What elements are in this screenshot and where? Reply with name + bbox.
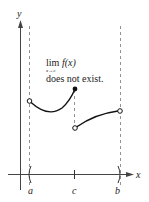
open-endpoint-c [73, 126, 78, 131]
closed-endpoint-c [73, 87, 78, 92]
open-endpoint-a [27, 99, 32, 104]
tick-label-c: c [72, 185, 77, 196]
annotation-func: f(x) [62, 57, 77, 69]
annotation-does-not-exist: does not exist. [46, 73, 104, 84]
x-axis-arrow-icon [126, 172, 134, 177]
tick-label-a: a [28, 185, 33, 196]
annotation-lim: lim [46, 57, 60, 68]
limit-diagram: y x a c b lim f(x) x→c does not exist. [0, 0, 149, 202]
open-endpoint-b [118, 109, 123, 114]
curve-right [77, 111, 119, 127]
y-axis-label: y [16, 8, 22, 19]
curve-left [31, 89, 76, 112]
tick-label-b: b [115, 185, 120, 196]
x-axis-label: x [135, 169, 141, 180]
y-axis-arrow-icon [18, 20, 23, 28]
